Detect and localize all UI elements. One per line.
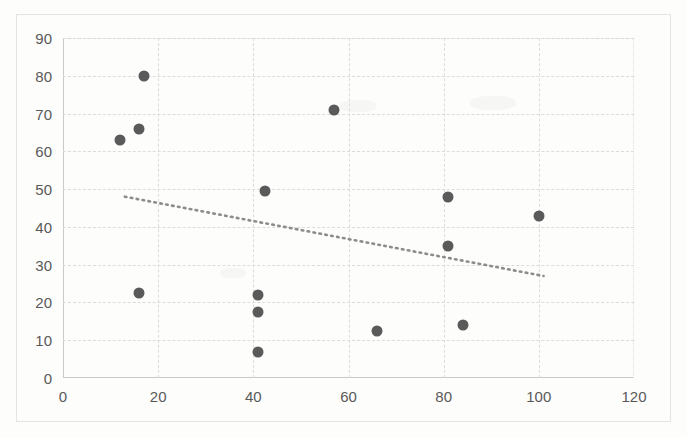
y-axis-tick-label: 0: [0, 371, 52, 386]
y-axis-tick-label: 40: [0, 220, 52, 235]
y-axis-tick-label: 70: [0, 107, 52, 122]
y-axis-tick-label: 50: [0, 182, 52, 197]
data-point: [372, 325, 383, 336]
data-point: [134, 123, 145, 134]
x-axis-tick-label: 60: [319, 389, 379, 404]
chart-plot-area: 90 80 70 60 50 40 30 20 10 0 0 20 40 60 …: [0, 0, 687, 438]
data-point: [253, 289, 264, 300]
data-point: [253, 346, 264, 357]
x-axis-tick-label: 40: [223, 389, 283, 404]
x-axis-tick-label: 0: [33, 389, 93, 404]
gridline-vertical: [444, 38, 445, 378]
data-point: [253, 306, 264, 317]
data-point: [443, 240, 454, 251]
data-point: [115, 135, 126, 146]
y-axis-tick-label: 30: [0, 258, 52, 273]
gridline-vertical: [349, 38, 350, 378]
gridline-vertical: [253, 38, 254, 378]
y-axis-tick-label: 10: [0, 333, 52, 348]
x-axis-tick-label: 120: [604, 389, 664, 404]
data-point: [134, 288, 145, 299]
gridline-vertical: [539, 38, 540, 378]
data-point: [457, 320, 468, 331]
data-point: [260, 186, 271, 197]
data-point: [443, 191, 454, 202]
data-point: [533, 210, 544, 221]
x-axis-tick-label: 80: [414, 389, 474, 404]
x-axis-tick-label: 20: [128, 389, 188, 404]
x-axis-tick-label: 100: [509, 389, 569, 404]
data-point: [329, 104, 340, 115]
gridline-vertical: [158, 38, 159, 378]
scatter-chart-screenshot: 90 80 70 60 50 40 30 20 10 0 0 20 40 60 …: [0, 0, 687, 438]
y-axis-tick-label: 60: [0, 144, 52, 159]
y-axis-tick-label: 90: [0, 31, 52, 46]
y-axis-tick-label: 80: [0, 69, 52, 84]
y-axis-tick-label: 20: [0, 295, 52, 310]
data-point: [138, 70, 149, 81]
